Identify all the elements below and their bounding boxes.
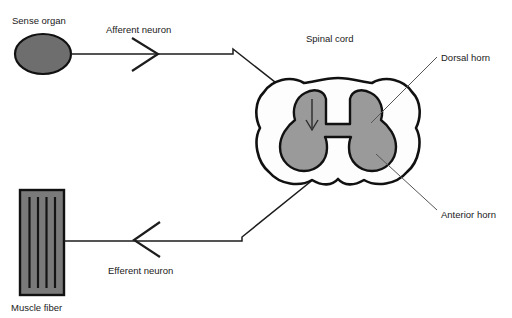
efferent-arrowhead-icon (134, 222, 160, 257)
afferent-neuron-label: Afferent neuron (106, 24, 171, 35)
diagram-canvas: Sense organ Afferent neuron Spinal cord … (0, 0, 512, 318)
muscle-fiber-label: Muscle fiber (11, 302, 62, 313)
dorsal-horn-label: Dorsal horn (441, 52, 490, 63)
spinal-cord-label: Spinal cord (306, 33, 354, 44)
sense-organ-label: Sense organ (12, 15, 66, 26)
reflex-arc-diagram: Sense organ Afferent neuron Spinal cord … (0, 0, 512, 318)
muscle-fiber-shape (20, 190, 64, 295)
efferent-neuron-label: Efferent neuron (108, 265, 173, 276)
sense-organ-shape (15, 34, 71, 74)
anterior-horn-label: Anterior horn (441, 209, 496, 220)
